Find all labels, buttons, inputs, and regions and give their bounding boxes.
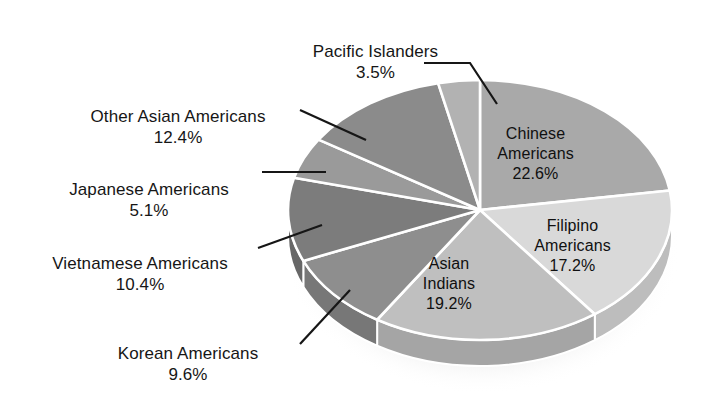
label-chinese-americans-value: 22.6% xyxy=(513,165,559,182)
label-asian-indians-value: 19.2% xyxy=(426,295,472,312)
label-japanese-americans: Japanese Americans 5.1% xyxy=(22,158,276,242)
label-pacific-islanders-value: 3.5% xyxy=(268,62,483,83)
label-filipino-americans: Filipino Americans 17.2% xyxy=(505,196,640,276)
label-japanese-americans-value: 5.1% xyxy=(22,200,276,221)
label-vietnamese-americans: Vietnamese Americans 10.4% xyxy=(4,232,276,316)
label-pacific-islanders-name: Pacific Islanders xyxy=(313,42,438,61)
label-asian-indians: Asian Indians 19.2% xyxy=(394,234,504,314)
label-other-asian-americans: Other Asian Americans 12.4% xyxy=(52,85,304,169)
label-japanese-americans-name: Japanese Americans xyxy=(69,180,229,199)
label-vietnamese-americans-name: Vietnamese Americans xyxy=(52,254,228,273)
label-asian-indians-name: Asian Indians xyxy=(423,255,475,292)
label-korean-americans-value: 9.6% xyxy=(62,364,314,385)
label-vietnamese-americans-value: 10.4% xyxy=(4,274,276,295)
label-korean-americans: Korean Americans 9.6% xyxy=(62,322,314,406)
chart-canvas: Pacific Islanders 3.5% Other Asian Ameri… xyxy=(0,0,706,406)
label-korean-americans-name: Korean Americans xyxy=(118,344,259,363)
label-other-asian-americans-name: Other Asian Americans xyxy=(90,107,265,126)
label-filipino-americans-value: 17.2% xyxy=(550,257,596,274)
label-filipino-americans-name: Filipino Americans xyxy=(534,217,610,254)
label-chinese-americans: Chinese Americans 22.6% xyxy=(468,104,603,184)
label-other-asian-americans-value: 12.4% xyxy=(52,127,304,148)
label-chinese-americans-name: Chinese Americans xyxy=(497,125,573,162)
